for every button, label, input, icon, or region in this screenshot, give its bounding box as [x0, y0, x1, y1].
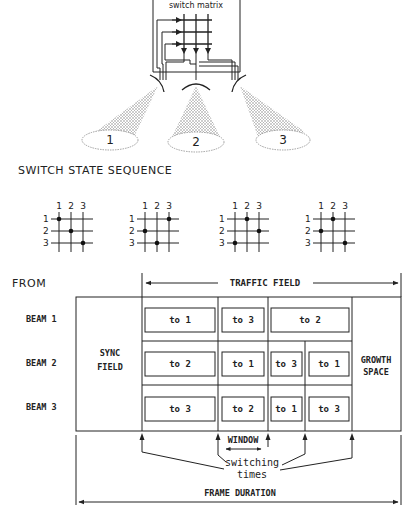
svg-text:1: 1: [43, 214, 49, 224]
burst: to 2: [232, 404, 254, 414]
switch-state-3: 1 2 3 1 2 3: [219, 201, 269, 252]
burst: to 1: [318, 359, 340, 369]
svg-text:1: 1: [219, 214, 225, 224]
burst: to 1: [232, 359, 254, 369]
beam-3: 3: [240, 86, 310, 150]
svg-text:3: 3: [43, 238, 49, 248]
burst: to 2: [299, 315, 321, 325]
svg-text:3: 3: [166, 201, 172, 211]
svg-text:3: 3: [129, 238, 135, 248]
growth-space-label-2: SPACE: [363, 367, 389, 377]
burst: to 3: [169, 404, 191, 414]
beam-3-bursts: to 3 to 2 to 1 to 3: [145, 397, 349, 421]
satellite-switching-diagram: switch matrix 1 2 3 SWITCH STATE: [0, 0, 410, 521]
svg-text:1: 1: [305, 214, 311, 224]
svg-text:2: 2: [244, 201, 250, 211]
svg-text:1: 1: [232, 201, 238, 211]
sync-field-label-1: SYNC: [100, 348, 120, 358]
svg-text:1: 1: [318, 201, 324, 211]
switch-state-sequence-title: SWITCH STATE SEQUENCE: [18, 164, 172, 177]
growth-space-label-1: GROWTH: [361, 355, 392, 365]
svg-text:2: 2: [43, 226, 49, 236]
svg-text:1: 1: [129, 214, 135, 224]
from-label: FROM: [12, 277, 46, 290]
beam-2-label: 2: [192, 135, 200, 149]
svg-text:2: 2: [154, 201, 160, 211]
switch-state-2: 1 2 3 1 2 3: [129, 201, 179, 252]
svg-text:2: 2: [129, 226, 135, 236]
beam-2: 2: [168, 86, 224, 152]
svg-text:3: 3: [219, 238, 225, 248]
window-label: WINDOW: [228, 435, 260, 445]
svg-text:1: 1: [56, 201, 62, 211]
burst: to 1: [275, 404, 297, 414]
beam-3-label: 3: [279, 133, 287, 147]
beam-1-label: 1: [106, 133, 114, 147]
beam-2-bursts: to 2 to 1 to 3 to 1: [145, 352, 349, 376]
switch-matrix-label: switch matrix: [169, 1, 223, 10]
burst: to 1: [169, 315, 191, 325]
row-label-beam-3: BEAM 3: [26, 402, 57, 412]
svg-text:2: 2: [219, 226, 225, 236]
svg-text:2: 2: [68, 201, 74, 211]
switching-times-label-1: switching: [225, 457, 279, 468]
sync-field-label-2: FIELD: [97, 362, 123, 372]
burst: to 2: [169, 359, 191, 369]
traffic-field-label: TRAFFIC FIELD: [230, 278, 301, 288]
switch-matrix: switch matrix: [153, 0, 240, 80]
frame-duration-label: FRAME DURATION: [204, 488, 276, 498]
svg-text:1: 1: [142, 201, 148, 211]
traffic-field-span: TRAFFIC FIELD: [142, 273, 401, 297]
burst: to 3: [318, 404, 340, 414]
svg-text:3: 3: [342, 201, 348, 211]
svg-text:2: 2: [305, 226, 311, 236]
svg-text:3: 3: [80, 201, 86, 211]
burst: to 3: [275, 359, 297, 369]
beam-1-bursts: to 1 to 3 to 2: [145, 308, 349, 332]
row-label-beam-1: BEAM 1: [26, 314, 57, 324]
switch-state-4: 1 2 3 1 2 3: [305, 201, 355, 252]
beam-1: 1: [82, 86, 158, 150]
switch-state-1: 1 2 3 1 2 3: [43, 201, 93, 252]
svg-text:3: 3: [305, 238, 311, 248]
row-label-beam-2: BEAM 2: [26, 358, 57, 368]
svg-text:2: 2: [330, 201, 336, 211]
window-span: WINDOW: [226, 435, 261, 449]
switching-times-label-2: times: [237, 469, 267, 480]
burst: to 3: [232, 315, 254, 325]
svg-text:3: 3: [256, 201, 262, 211]
